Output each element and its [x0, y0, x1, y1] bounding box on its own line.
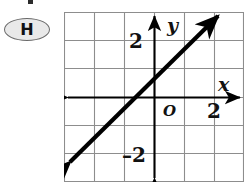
answer-choice-badge[interactable]: H: [4, 18, 50, 41]
top-edge-artifact: [28, 0, 33, 4]
screenshot-root: H: [0, 0, 246, 185]
y-axis-tick-label-negative-2: –2: [122, 143, 146, 167]
origin-label: O: [163, 102, 176, 120]
x-axis-label: x: [217, 73, 230, 95]
y-axis-tick-label-2: 2: [129, 29, 143, 53]
x-axis-tick-label-2: 2: [207, 99, 221, 123]
answer-choice-letter: H: [5, 19, 49, 40]
coordinate-graph: y x 2 2 –2 O: [64, 12, 244, 182]
coordinate-graph-svg: y x 2 2 –2 O: [64, 12, 244, 182]
y-axis-label: y: [166, 14, 180, 36]
